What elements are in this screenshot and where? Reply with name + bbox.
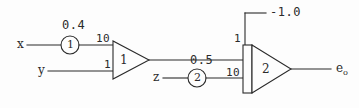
amp-2-triangle [252,45,291,93]
z-input-label: z [153,71,159,83]
pot-2-setting-label: 0.5 [190,54,213,66]
amp-2-gain-symbol: 2 [262,63,270,75]
amp-2-bottom-gain-label: 10 [226,67,240,78]
amp-1-top-gain-label: 10 [96,33,110,44]
pot-1-setting-label: 0.4 [62,19,85,31]
amp-1-triangle [113,41,149,79]
pot-2-inner-label: 2 [194,72,201,83]
y-input-label: y [38,64,45,76]
amp-2-summing-bar [243,45,252,93]
amp-2-top-gain-label: 1 [234,33,241,44]
x-input-label: x [17,38,24,50]
pot-1-inner-label: 1 [67,39,74,50]
diagram-canvas: x y z 1 2 0.4 0.5 10 1 1 1 10 2 -1.0 eo [0,0,359,108]
diagram-vector-layer [0,0,359,108]
output-label: eo [336,62,348,77]
output-label-subscript: o [343,67,348,77]
bias-value-label: -1.0 [270,6,301,18]
amp-1-bottom-gain-label: 1 [104,59,111,70]
amp-1-gain-symbol: 1 [120,54,128,66]
